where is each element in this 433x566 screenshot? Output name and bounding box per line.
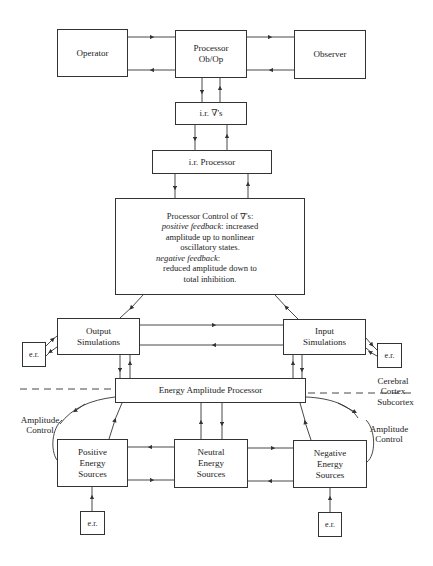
- energy-text: Energy: [198, 458, 224, 469]
- output-simulations-label: Simulations: [77, 337, 120, 348]
- ir-gradients-box: i.r. ∇'s: [175, 102, 247, 125]
- er-bottom-left-box: e.r.: [80, 511, 105, 535]
- ir-processor-box: i.r. Processor: [152, 150, 272, 174]
- neutral-energy-sources-box: Neutral Energy Sources: [174, 439, 248, 488]
- energy-text: Energy: [80, 458, 106, 469]
- amplitude-text: Amplitude: [367, 424, 411, 434]
- er-right-box: e.r.: [377, 343, 402, 368]
- operator-label: Operator: [77, 48, 109, 59]
- positive-energy-sources-box: Positive Energy Sources: [57, 439, 128, 487]
- input-label: Input: [315, 326, 334, 337]
- amplitude-control-left-label: Amplitude Control: [18, 415, 62, 435]
- sources-text: Sources: [78, 469, 107, 480]
- energy-text: Energy: [317, 459, 343, 470]
- negative-feedback-text: :: [218, 253, 220, 263]
- operator-box: Operator: [57, 29, 128, 77]
- negative-feedback-line3: total inhibition.: [184, 274, 237, 285]
- processor-obop-box: Processor Ob/Op: [175, 30, 247, 78]
- er-left-box: e.r.: [22, 342, 46, 367]
- ir-processor-label: i.r. Processor: [189, 157, 236, 168]
- observer-label: Observer: [314, 49, 347, 60]
- input-simulations-box: Input Simulations: [283, 319, 366, 355]
- negative-text: Negative: [314, 448, 346, 459]
- neutral-text: Neutral: [198, 447, 225, 458]
- processor-control-box: Processor Control of ∇'s: positive feedb…: [115, 198, 305, 295]
- negative-feedback-line2: reduced amplitude down to: [163, 263, 257, 274]
- processor-control-title: Processor Control of ∇'s:: [167, 211, 254, 222]
- control-text: Control: [18, 425, 62, 435]
- positive-feedback-text: : increased: [221, 221, 258, 231]
- cortex-text: Cortex: [368, 386, 418, 396]
- positive-text: Positive: [78, 447, 107, 458]
- er-right-label: e.r.: [385, 350, 395, 361]
- control-text: Control: [367, 434, 411, 444]
- negative-feedback-label: negative feedback: [156, 253, 218, 263]
- amplitude-text: Amplitude: [18, 415, 62, 425]
- processor-label: Processor: [194, 43, 229, 54]
- er-bottom-right-label: e.r.: [325, 519, 335, 530]
- output-simulations-box: Output Simulations: [57, 318, 140, 355]
- subcortex-label: Subcortex: [368, 397, 423, 407]
- energy-amplitude-processor-box: Energy Amplitude Processor: [115, 378, 306, 403]
- energy-amplitude-processor-label: Energy Amplitude Processor: [159, 385, 262, 396]
- input-simulations-label: Simulations: [303, 337, 346, 348]
- er-bottom-left-label: e.r.: [88, 518, 98, 529]
- cerebral-text: Cerebral: [368, 376, 418, 386]
- positive-feedback-line3: oscillatory states.: [180, 242, 240, 253]
- output-label: Output: [86, 326, 111, 337]
- amplitude-control-right-label: Amplitude Control: [367, 424, 411, 444]
- er-left-label: e.r.: [29, 349, 39, 360]
- ir-gradients-label: i.r. ∇'s: [199, 108, 222, 119]
- obop-label: Ob/Op: [199, 54, 224, 65]
- er-bottom-right-box: e.r.: [318, 512, 342, 537]
- positive-feedback-line2: amplitude up to nonlinear: [166, 232, 255, 243]
- sources-text: Sources: [197, 469, 226, 480]
- sources-text: Sources: [316, 470, 345, 481]
- observer-box: Observer: [294, 30, 366, 79]
- cerebral-cortex-label: Cerebral Cortex: [368, 376, 418, 396]
- positive-feedback-label: positive feedback: [162, 221, 221, 231]
- negative-energy-sources-box: Negative Energy Sources: [293, 440, 367, 488]
